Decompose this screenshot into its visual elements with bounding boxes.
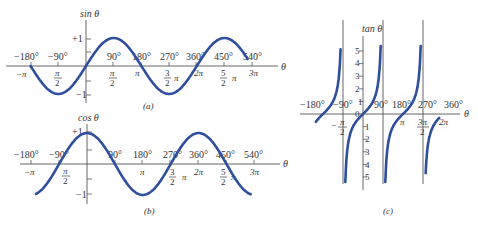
svg-text:1: 1 [365, 122, 370, 132]
svg-text:π: π [174, 73, 179, 83]
sin-axis-label: sin θ [80, 8, 99, 19]
svg-text:−: − [331, 120, 336, 130]
deg-360: 360° [444, 99, 463, 110]
svg-text:5: 5 [221, 167, 226, 177]
svg-text:1: 1 [358, 97, 363, 107]
svg-text:π: π [182, 172, 187, 182]
theta-axis-label: θ [283, 158, 288, 169]
rad-pi: π [400, 117, 405, 127]
svg-text:2: 2 [420, 127, 425, 137]
svg-text:3: 3 [365, 147, 370, 157]
rad-3pi: 3π [249, 167, 260, 177]
svg-text:3: 3 [170, 167, 175, 177]
rad-2pi: 2π [194, 167, 204, 177]
svg-text:2: 2 [170, 177, 175, 187]
svg-text:π: π [63, 166, 68, 176]
svg-text:4: 4 [355, 58, 360, 68]
svg-text:2: 2 [355, 84, 360, 94]
svg-text:5: 5 [355, 46, 360, 56]
deg-360: 360° [189, 149, 208, 160]
deg-m180: −180° [14, 149, 39, 160]
svg-text:2: 2 [110, 78, 115, 88]
y-tick-minus-1: −1 [76, 189, 87, 200]
panel-a-sine: sin θ θ +1 −1 −180° −90° 90° 180° 270° 3… [6, 8, 286, 111]
deg-270: 270° [160, 51, 179, 62]
theta-axis-label: θ [464, 108, 469, 119]
svg-text:5: 5 [365, 172, 370, 182]
svg-text:3: 3 [355, 71, 360, 81]
svg-text:3π: 3π [417, 117, 428, 127]
svg-text:2: 2 [55, 78, 60, 88]
rad-pi: π [135, 68, 140, 78]
theta-axis-label: θ [281, 61, 286, 72]
y-tick-minus-1: −1 [76, 89, 87, 100]
svg-text:2: 2 [165, 78, 170, 88]
rad-mpi: −π [24, 167, 35, 177]
tan-axis-label: tan θ [362, 23, 382, 34]
cos-axis-label: cos θ [78, 112, 99, 123]
caption-a: (a) [143, 101, 154, 111]
rad-pi: π [140, 167, 145, 177]
rad-2pi: 2π [439, 117, 449, 127]
svg-text:π: π [110, 68, 115, 78]
svg-text:2: 2 [221, 177, 226, 187]
svg-text:4: 4 [365, 160, 370, 170]
deg-90: 90° [107, 51, 121, 62]
deg-270: 270° [418, 99, 437, 110]
svg-text:π: π [232, 73, 237, 83]
deg-m90: −90° [333, 99, 353, 110]
caption-b: (b) [144, 206, 155, 216]
y-tick-plus-1: +1 [72, 33, 83, 44]
rad-3pi: 3π [248, 68, 259, 78]
deg-540: 540° [244, 149, 263, 160]
panel-c-tangent: tan θ θ 5 4 3 2 1 0 1 2 3 4 5 −180° −90°… [300, 20, 469, 216]
svg-text:2: 2 [340, 127, 345, 137]
svg-text:3: 3 [165, 68, 170, 78]
svg-text:2: 2 [221, 78, 226, 88]
svg-text:5: 5 [221, 68, 226, 78]
deg-m90: −90° [48, 51, 68, 62]
trig-functions-figure: sin θ θ +1 −1 −180° −90° 90° 180° 270° 3… [0, 0, 478, 228]
deg-90: 90° [374, 99, 388, 110]
svg-text:π: π [55, 68, 60, 78]
deg-m180: −180° [300, 99, 325, 110]
deg-180: 180° [133, 149, 152, 160]
deg-450: 450° [214, 51, 233, 62]
panel-b-cosine: cos θ θ +1 −1 −180° −90° 90° 180° 270° 3… [14, 112, 288, 216]
caption-c: (c) [383, 206, 393, 216]
svg-text:2: 2 [365, 134, 370, 144]
rad-mpi: −π [16, 69, 27, 79]
svg-text:2: 2 [63, 176, 68, 186]
deg-m180: −180° [14, 51, 39, 62]
svg-text:π: π [340, 117, 345, 127]
